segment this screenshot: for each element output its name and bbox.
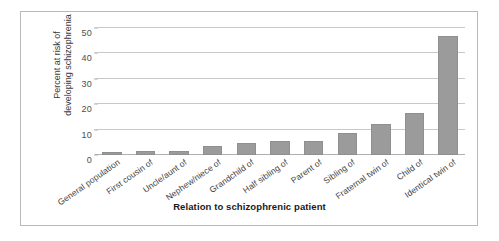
- chart-figure: Percent at risk of developing schizophre…: [0, 0, 499, 241]
- bar: [438, 36, 458, 155]
- x-axis-title: Relation to schizophrenic patient: [0, 201, 499, 212]
- x-axis-ticks: General populationFirst cousin ofUncle/a…: [95, 157, 465, 203]
- y-axis-ticks: 01020304050: [60, 28, 92, 155]
